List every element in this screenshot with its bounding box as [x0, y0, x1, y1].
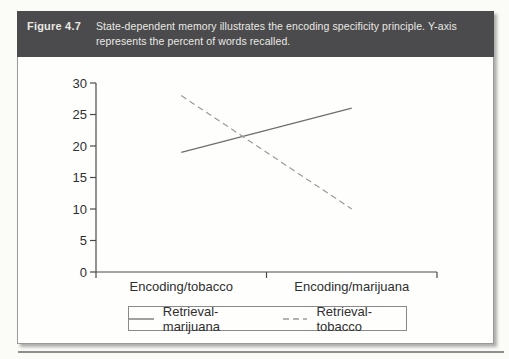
figure-box: Figure 4.7 State-dependent memory illust… [17, 11, 494, 344]
figure-caption-line-1: State-dependent memory illustrates the e… [96, 19, 457, 34]
y-tick-label: 10 [73, 202, 87, 217]
y-tick-label: 5 [80, 233, 87, 248]
page-divider-rule [18, 351, 504, 353]
y-tick-label: 20 [73, 139, 87, 154]
y-tick-label: 30 [73, 76, 87, 91]
figure-caption-line-2: represents the percent of words recalled… [96, 34, 457, 49]
y-tick-label: 25 [73, 107, 87, 122]
dashed-line-swatch-icon [283, 316, 308, 322]
figure-caption: State-dependent memory illustrates the e… [96, 19, 457, 48]
figure-header: Figure 4.7 State-dependent memory illust… [17, 11, 494, 57]
figure-label: Figure 4.7 [27, 19, 81, 32]
legend-label: Retrieval-marijuana [163, 304, 263, 334]
figure-body: 051015202530Encoding/tobaccoEncoding/mar… [17, 57, 494, 344]
chart-legend: Retrieval-marijuanaRetrieval-tobacco [128, 306, 407, 331]
y-tick-label: 15 [73, 170, 87, 185]
legend-item-retrieval-marijuana: Retrieval-marijuana [129, 304, 263, 334]
solid-line-swatch-icon [129, 316, 154, 322]
x-category-label: Encoding/marijuana [294, 279, 410, 294]
series-line-retrieval-marijuana [181, 108, 352, 152]
x-category-label: Encoding/tobacco [130, 279, 233, 294]
legend-item-retrieval-tobacco: Retrieval-tobacco [283, 304, 406, 334]
line-chart: 051015202530Encoding/tobaccoEncoding/mar… [18, 57, 493, 344]
legend-label: Retrieval-tobacco [316, 304, 406, 334]
y-tick-label: 0 [80, 265, 87, 280]
series-line-retrieval-tobacco [181, 96, 352, 209]
